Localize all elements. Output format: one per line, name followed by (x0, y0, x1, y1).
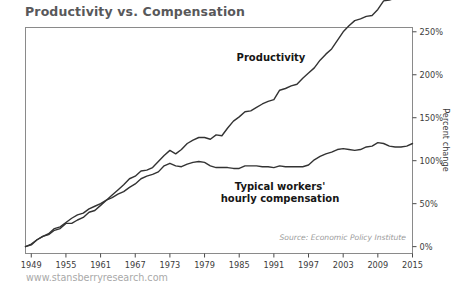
y-axis-tick-labels: 0%50%100%150%200%250% (420, 27, 444, 252)
x-axis-tick-label: 1949 (21, 260, 42, 270)
x-axis-tick-label: 1955 (56, 260, 77, 270)
y-axis-tick-label: 200% (420, 70, 444, 80)
series-label-productivity: Productivity (237, 52, 306, 63)
x-axis-tick-label: 1973 (159, 260, 180, 270)
y-axis-tick-label: 250% (420, 27, 444, 37)
x-axis-tick-label: 2015 (402, 260, 423, 270)
x-axis-tick-label: 1961 (90, 260, 111, 270)
y-axis-tick-label: 0% (420, 242, 433, 252)
x-axis-tick-label: 1979 (194, 260, 215, 270)
y-axis-tick-label: 150% (420, 113, 444, 123)
series-line-productivity (26, 0, 413, 247)
y-axis-tick-label: 100% (420, 156, 444, 166)
y-axis-ticks (413, 32, 417, 247)
chart-figure: Productivity vs. Compensation 0%50%100%1… (0, 0, 461, 298)
x-axis-tick-label: 1967 (125, 260, 146, 270)
y-axis-tick-label: 50% (420, 199, 438, 209)
x-axis-tick-label: 1997 (298, 260, 319, 270)
x-axis-tick-label: 2003 (333, 260, 354, 270)
x-axis-tick-label: 1985 (229, 260, 250, 270)
source-note: Source: Economic Policy Institute (280, 233, 407, 242)
series-line-compensation (26, 143, 413, 247)
series-label-compensation-line1: Typical workers' (235, 181, 325, 192)
y-axis-title: Percent change (441, 108, 451, 172)
x-axis-tick-label: 1991 (263, 260, 284, 270)
x-axis-ticks (31, 254, 412, 258)
chart-plot-area: 0%50%100%150%200%250% 194919551961196719… (0, 0, 461, 298)
series-label-compensation-line2: hourly compensation (221, 193, 340, 204)
site-watermark: www.stansberryresearch.com (26, 272, 168, 283)
x-axis-tick-labels: 1949195519611967197319791985199119972003… (21, 260, 423, 270)
x-axis-tick-label: 2009 (367, 260, 388, 270)
plot-frame (26, 28, 413, 254)
